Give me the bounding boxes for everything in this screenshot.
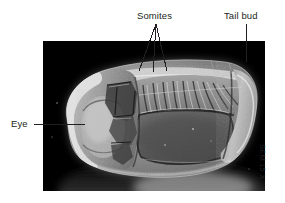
annotation-label-somites: Somites: [137, 10, 172, 21]
annotation-label-eye: Eye: [11, 118, 28, 129]
sem-micrograph-image: [43, 41, 265, 191]
annotation-label-tail-bud: Tail bud: [224, 10, 258, 21]
figure-panel: Somites Tail bud Eye SEM 15 X: [0, 0, 285, 203]
sem-magnification-caption: SEM 15 X: [258, 144, 266, 179]
micrograph-artwork: [43, 41, 265, 191]
